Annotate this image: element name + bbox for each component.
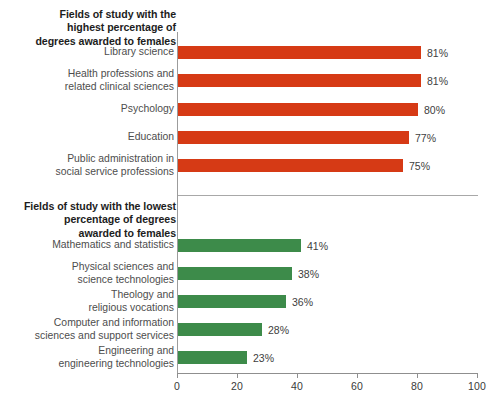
bar-value-label: 77% bbox=[415, 132, 436, 144]
category-label: Public administration in social service … bbox=[0, 153, 174, 178]
bar-value-label: 36% bbox=[292, 296, 313, 308]
bar-value-label: 23% bbox=[253, 352, 274, 364]
category-label-line: Computer and information bbox=[0, 317, 174, 330]
x-axis-tick-label-20: 20 bbox=[217, 380, 257, 392]
bar-chart: Fields of study with the highest percent… bbox=[0, 0, 500, 402]
section-heading-lowest-line-1: Fields of study with the lowest bbox=[4, 200, 176, 213]
category-label-line: Health professions and bbox=[0, 68, 174, 81]
bar-education bbox=[178, 131, 409, 144]
section-heading-lowest-line-2: percentage of degrees bbox=[4, 213, 176, 226]
bar-computer-information-sciences bbox=[178, 323, 262, 336]
category-label-line: Physical sciences and bbox=[0, 261, 174, 274]
x-axis-tick-20 bbox=[237, 373, 238, 378]
section-heading-highest-line-1: Fields of study with the bbox=[4, 8, 176, 21]
bar-value-label: 81% bbox=[427, 75, 448, 87]
category-label-line: religious vocations bbox=[0, 302, 174, 315]
category-label-line: Education bbox=[0, 131, 174, 144]
section-heading-highest-line-2: highest percentage of bbox=[4, 21, 176, 34]
bar-value-label: 41% bbox=[307, 240, 328, 252]
category-label-line: Engineering and bbox=[0, 345, 174, 358]
x-axis-tick-80 bbox=[417, 373, 418, 378]
bar-psychology bbox=[178, 103, 418, 116]
x-axis-tick-label-100: 100 bbox=[457, 380, 497, 392]
category-label: Physical sciences and science technologi… bbox=[0, 261, 174, 286]
bar-public-administration bbox=[178, 159, 403, 172]
bar-theology bbox=[178, 295, 286, 308]
category-label-line: Public administration in bbox=[0, 153, 174, 166]
bar-value-label: 81% bbox=[427, 47, 448, 59]
x-axis-line bbox=[177, 373, 478, 374]
bar-physical-sciences bbox=[178, 267, 292, 280]
category-label: Psychology bbox=[0, 103, 174, 116]
category-label: Library science bbox=[0, 46, 174, 59]
category-label-line: related clinical sciences bbox=[0, 81, 174, 94]
x-axis-tick-0 bbox=[177, 373, 178, 378]
bar-value-label: 28% bbox=[268, 324, 289, 336]
bar-value-label: 80% bbox=[424, 104, 445, 116]
category-label: Computer and information sciences and su… bbox=[0, 317, 174, 342]
section-heading-highest: Fields of study with the highest percent… bbox=[4, 8, 176, 48]
bar-engineering bbox=[178, 351, 247, 364]
x-axis-tick-label-40: 40 bbox=[277, 380, 317, 392]
y-axis-line bbox=[177, 32, 178, 373]
category-label: Health professions and related clinical … bbox=[0, 68, 174, 93]
bar-value-label: 75% bbox=[409, 160, 430, 172]
bar-health-professions bbox=[178, 74, 421, 87]
x-axis-tick-40 bbox=[297, 373, 298, 378]
category-label: Mathematics and statistics bbox=[0, 239, 174, 252]
category-label-line: Mathematics and statistics bbox=[0, 239, 174, 252]
category-label-line: Psychology bbox=[0, 103, 174, 116]
bar-value-label: 38% bbox=[298, 268, 319, 280]
category-label-line: social service professions bbox=[0, 166, 174, 179]
bar-library-science bbox=[178, 46, 421, 59]
category-label-line: Library science bbox=[0, 46, 174, 59]
category-label: Engineering and engineering technologies bbox=[0, 345, 174, 370]
category-label-line: Theology and bbox=[0, 289, 174, 302]
category-label-line: science technologies bbox=[0, 274, 174, 287]
x-axis-tick-label-60: 60 bbox=[337, 380, 377, 392]
section-heading-lowest: Fields of study with the lowest percenta… bbox=[4, 200, 176, 240]
category-label-line: engineering technologies bbox=[0, 358, 174, 371]
category-label-line: sciences and support services bbox=[0, 330, 174, 343]
x-axis-tick-label-0: 0 bbox=[157, 380, 197, 392]
section-divider bbox=[177, 195, 478, 196]
bar-mathematics-statistics bbox=[178, 239, 301, 252]
x-axis-tick-100 bbox=[477, 373, 478, 378]
category-label: Theology and religious vocations bbox=[0, 289, 174, 314]
x-axis-tick-60 bbox=[357, 373, 358, 378]
x-axis-tick-label-80: 80 bbox=[397, 380, 437, 392]
category-label: Education bbox=[0, 131, 174, 144]
